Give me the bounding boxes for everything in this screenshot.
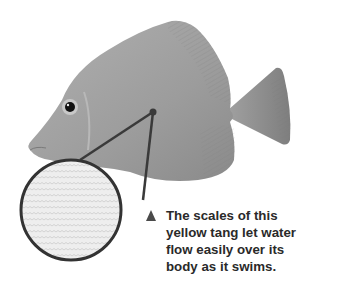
scales-magnified-inset	[21, 160, 121, 260]
caption-line: The scales of this	[166, 207, 342, 224]
figure-caption: The scales of this yellow tang let water…	[166, 207, 342, 275]
caption-line: flow easily over its	[166, 241, 342, 258]
tail-fin	[228, 68, 290, 145]
triangle-pointer-icon	[146, 210, 156, 221]
caption-line: yellow tang let water	[166, 224, 342, 241]
eye	[62, 99, 78, 115]
fish-body	[28, 21, 235, 181]
caption-line: body as it swims.	[166, 258, 342, 275]
fish-figure: The scales of this yellow tang let water…	[0, 0, 342, 294]
